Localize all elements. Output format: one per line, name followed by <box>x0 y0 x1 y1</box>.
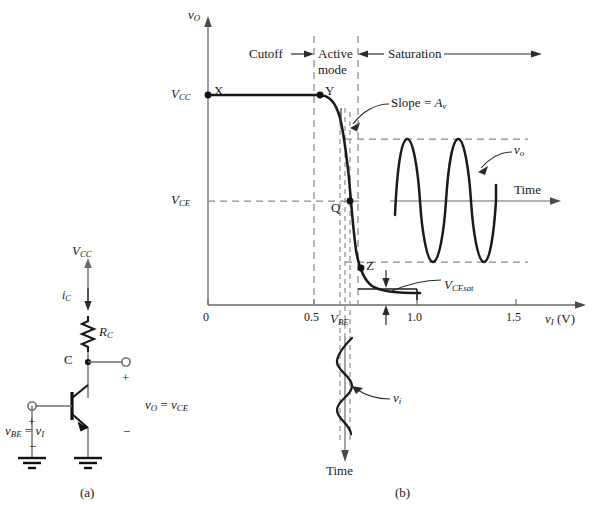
ground-icon-emitter <box>74 458 102 468</box>
y-tick-label-vcc: VCC <box>171 87 191 102</box>
resistor-icon <box>82 316 94 352</box>
caption-a: (a) <box>80 486 94 499</box>
input-time-label: Time <box>326 464 353 477</box>
point-x-dot <box>205 92 212 99</box>
vcesat-down-arrow-icon <box>382 278 389 288</box>
collector-current-label: iC <box>62 289 71 303</box>
y-axis-arrow-icon <box>204 16 212 27</box>
vo-leader-line <box>481 152 512 168</box>
region-label-saturation: Saturation <box>388 47 441 60</box>
point-label-x: X <box>214 84 223 97</box>
region-label-active-2: mode <box>318 63 347 76</box>
x-ticks <box>208 299 516 305</box>
caption-b: (b) <box>395 486 410 499</box>
y-tick-label-vce: VCE <box>171 193 190 208</box>
point-q-dot <box>347 198 354 205</box>
vcesat-annotation-label: VCEsat <box>444 278 474 293</box>
input-minus-sign: − <box>29 440 36 453</box>
supply-arrow-icon <box>84 258 92 268</box>
point-label-y: Y <box>325 84 334 97</box>
x-tick-label-vbe: VBE <box>330 312 349 327</box>
x-tick-label-10: 1.0 <box>407 311 422 323</box>
point-label-q: Q <box>331 201 340 214</box>
output-time-arrow-icon <box>550 197 561 205</box>
vcesat-up-arrow-icon <box>382 305 389 315</box>
slope-annotation-label: Slope = Av <box>391 96 446 111</box>
ic-arrow-icon <box>84 301 91 311</box>
point-y-dot <box>317 92 324 99</box>
input-voltage-label: vBE = vI <box>5 424 44 439</box>
output-plus-sign: + <box>122 371 129 384</box>
vo-arrow-icon <box>478 166 488 175</box>
region-label-active-1: Active <box>318 47 353 60</box>
y-axis-label: vO <box>188 8 200 23</box>
output-waveform-group <box>390 139 561 262</box>
transistor-collector-lead <box>72 385 88 398</box>
output-voltage-label: vO = vCE <box>145 398 188 413</box>
region-label-cutoff: Cutoff <box>249 47 283 60</box>
vi-leader-line <box>356 389 390 399</box>
ground-icon-input <box>18 458 46 468</box>
node-c-label: C <box>64 353 73 366</box>
figure-root: V_CCVCC iC RC C + − vO = vCE + − vBE = v… <box>0 0 602 505</box>
input-waveform-group <box>337 336 390 462</box>
output-minus-sign: − <box>123 425 130 438</box>
output-wave-label: vo <box>514 143 524 158</box>
slope-arrow-icon <box>350 123 360 132</box>
x-tick-label-0: 0 <box>203 311 209 323</box>
input-wave-label: vi <box>393 391 401 406</box>
point-label-z: Z <box>366 259 374 272</box>
x-axis-label: vI (V) <box>545 312 575 327</box>
x-tick-label-15: 1.5 <box>506 311 521 323</box>
resistor-label: RC <box>99 325 113 340</box>
supply-label: V_CCVCC <box>72 244 92 259</box>
input-time-arrow-icon <box>341 450 349 462</box>
output-terminal-icon <box>122 358 130 366</box>
point-z-dot <box>358 265 365 272</box>
x-tick-label-05: 0.5 <box>304 311 319 323</box>
x-axis-arrow-icon <box>575 301 586 309</box>
output-time-label: Time <box>514 183 541 196</box>
